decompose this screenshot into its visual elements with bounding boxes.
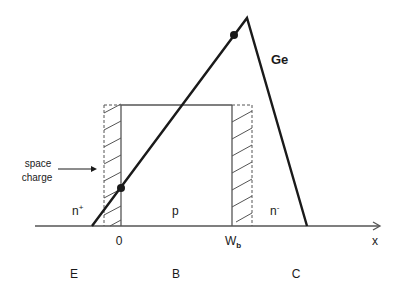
base-doping-label: p: [172, 204, 179, 218]
space-charge-label-line1: space: [25, 158, 52, 169]
curve-label-ge: Ge: [271, 52, 288, 67]
x-axis-label: x: [372, 234, 378, 248]
marker-dot-peak: [230, 31, 238, 39]
right-space-charge-region: [232, 105, 252, 226]
space-charge-label-line2: charge: [22, 172, 53, 183]
origin-label: 0: [116, 234, 123, 248]
diagram-canvas: Ge space charge n+ p n- 0 Wb x E B C: [0, 0, 399, 297]
emitter-doping-label: n+: [72, 203, 84, 218]
space-charge-arrowhead: [91, 166, 97, 172]
region-label-base: B: [172, 267, 180, 281]
ge-profile-curve: [92, 18, 307, 226]
collector-doping-label: n-: [270, 203, 280, 218]
region-label-collector: C: [292, 267, 301, 281]
base-width-label: Wb: [225, 234, 241, 250]
region-label-emitter: E: [70, 267, 78, 281]
marker-dot-emitter-base: [117, 184, 125, 192]
